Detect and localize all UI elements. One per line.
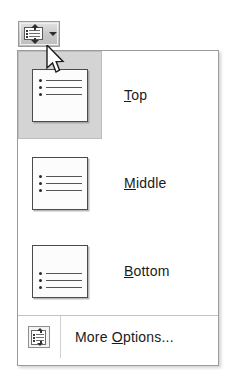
thumb-rule xyxy=(46,176,82,177)
align-top-icon xyxy=(32,69,88,122)
thumb-bullet xyxy=(39,93,42,96)
icon-arrow-down-stem xyxy=(34,38,36,41)
align-bottom-icon xyxy=(32,245,88,298)
opt-arrow-down-stem xyxy=(40,341,42,344)
alignment-gallery: Top xyxy=(18,51,218,315)
menu-item-middle-label: Middle xyxy=(124,175,166,191)
thumb-bullet xyxy=(39,279,42,282)
thumb-rule xyxy=(46,183,82,184)
thumb-rule xyxy=(46,190,82,191)
menu-item-more-options[interactable]: More Options... xyxy=(18,316,218,358)
menu-item-top-label: Top xyxy=(124,87,147,103)
menu-item-bottom-label: Bottom xyxy=(124,263,170,279)
thumb-rule xyxy=(46,287,82,288)
menu-item-top[interactable]: Top xyxy=(18,51,218,139)
thumb-bullet xyxy=(39,86,42,89)
menu-item-middle-thumb-frame xyxy=(18,139,102,227)
thumb-rule xyxy=(46,94,82,95)
icon-arrow-up-stem xyxy=(34,27,36,30)
thumb-bullet xyxy=(39,272,42,275)
more-options-icon xyxy=(28,326,50,348)
align-middle-icon xyxy=(32,157,88,210)
more-options-accel-key: O xyxy=(112,329,123,345)
opt-bullet xyxy=(33,337,35,339)
icon-line xyxy=(29,36,40,37)
menu-item-top-label-rest: op xyxy=(131,87,147,103)
menu-item-bottom-accel-key: B xyxy=(124,263,134,279)
vertical-align-icon xyxy=(23,24,45,44)
menu-item-bottom[interactable]: Bottom xyxy=(18,227,218,315)
vertical-alignment-toolbar-button[interactable] xyxy=(18,21,60,47)
menu-item-middle[interactable]: Middle xyxy=(18,139,218,227)
icon-bullet xyxy=(26,33,28,35)
more-options-label: More Options... xyxy=(75,329,174,345)
thumb-bullet xyxy=(39,182,42,185)
thumb-bullet xyxy=(39,175,42,178)
opt-arrow-up-stem xyxy=(40,331,42,334)
more-options-label-rest: ptions... xyxy=(123,329,174,345)
opt-line xyxy=(36,337,44,338)
icon-line xyxy=(29,33,40,34)
thumb-rule xyxy=(46,273,82,274)
thumb-rule xyxy=(46,80,82,81)
more-options-label-head: More xyxy=(75,329,112,345)
vertical-alignment-dropdown-menu: Top xyxy=(17,50,219,366)
thumb-bullet xyxy=(39,189,42,192)
more-options-icon-cell xyxy=(18,316,61,358)
icon-line xyxy=(29,30,40,31)
thumb-rule xyxy=(46,87,82,88)
thumb-bullet xyxy=(39,79,42,82)
thumb-rule xyxy=(46,280,82,281)
opt-bullet xyxy=(33,334,35,336)
icon-bullet xyxy=(26,36,28,38)
menu-item-bottom-thumb-frame xyxy=(18,227,102,315)
opt-bullet xyxy=(33,340,35,342)
icon-bullet xyxy=(26,30,28,32)
menu-item-top-thumb-frame xyxy=(18,51,102,139)
menu-item-middle-accel-key: M xyxy=(124,175,136,191)
dropdown-arrow-icon[interactable] xyxy=(49,32,57,36)
thumb-bullet xyxy=(39,286,42,289)
menu-item-middle-label-rest: iddle xyxy=(136,175,167,191)
opt-line xyxy=(36,334,44,335)
menu-item-bottom-label-rest: ottom xyxy=(134,263,170,279)
